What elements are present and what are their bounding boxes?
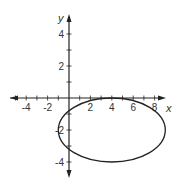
y-axis-bottom-arrow-icon [67,170,72,178]
x-tick-label: 4 [109,102,115,113]
x-tick-label: 6 [130,102,136,113]
x-tick-label: -4 [22,102,31,113]
axes: -4-22468 42-2-4 [10,14,166,178]
x-axis-label: x [165,102,172,114]
y-tick-label: -2 [55,125,64,136]
x-tick-label: -2 [43,102,52,113]
y-axis-label: y [57,12,65,24]
y-tick-label: 2 [58,61,64,72]
y-tick-label: 4 [58,29,64,40]
x-axis-left-arrow-icon [10,96,18,101]
y-tick-label: -4 [55,157,64,168]
ellipse-plot: -4-22468 42-2-4 x y [0,0,178,184]
x-axis-right-arrow-icon [158,96,166,101]
x-tick-label: 2 [88,102,94,113]
y-axis-top-arrow-icon [67,14,72,22]
